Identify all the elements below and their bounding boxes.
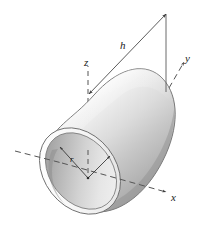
paraboloid-body bbox=[23, 69, 175, 228]
label-x: x bbox=[171, 192, 176, 203]
label-h: h bbox=[120, 40, 126, 51]
label-r: r bbox=[70, 155, 74, 164]
opening-center-point bbox=[87, 177, 90, 180]
label-z: z bbox=[84, 57, 88, 68]
label-y: y bbox=[185, 53, 190, 64]
figure-container: h z y x r bbox=[0, 0, 205, 228]
